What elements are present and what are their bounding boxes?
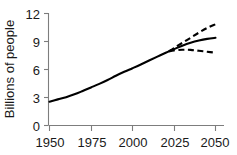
population-projection-chart: 12 9 6 3 0 1950 1975 2000 2025 2050 Bill…: [0, 0, 237, 155]
y-tick-label-0: 0: [33, 119, 40, 134]
series-path-low-projection: [169, 50, 215, 53]
x-tick-label-2000: 2000: [119, 135, 148, 150]
x-tick-labels: 1950 1975 2000 2025 2050: [36, 135, 230, 150]
y-tick-marks: [44, 14, 49, 126]
data-series-group: [50, 24, 216, 101]
y-tick-labels: 12 9 6 3 0: [26, 7, 40, 134]
y-tick-label-9: 9: [33, 35, 40, 50]
x-tick-label-2025: 2025: [161, 135, 190, 150]
y-tick-label-12: 12: [26, 7, 40, 22]
x-tick-marks: [50, 126, 216, 132]
axes-group: [49, 13, 225, 126]
y-tick-label-6: 6: [33, 63, 40, 78]
y-tick-label-3: 3: [33, 91, 40, 106]
x-tick-label-1975: 1975: [78, 135, 107, 150]
chart-canvas: 12 9 6 3 0 1950 1975 2000 2025 2050 Bill…: [0, 0, 237, 155]
y-axis-title: Billions of people: [2, 20, 17, 118]
x-tick-label-2050: 2050: [201, 135, 230, 150]
series-path-medium-projection: [50, 38, 216, 102]
x-tick-label-1950: 1950: [36, 135, 65, 150]
